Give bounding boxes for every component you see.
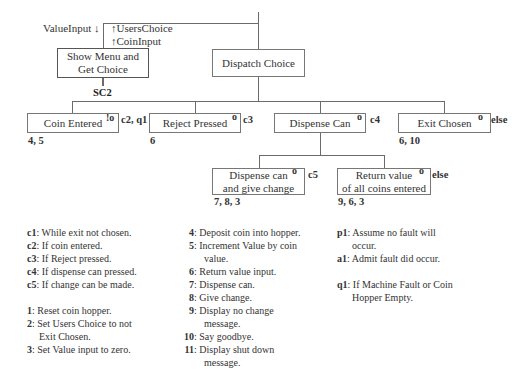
legend-a1: a1: Admit fault did occur. — [337, 252, 507, 265]
show-menu-sc2-connector — [102, 77, 104, 86]
legend-action-8: 8: Give change. — [182, 291, 332, 304]
legend-posit-quit: p1: Assume no fault will occur. a1: Admi… — [337, 226, 507, 304]
reject-pressed-box: Reject Pressed — [149, 113, 241, 133]
reject-pressed-connector — [195, 101, 196, 113]
dispense-change-connector — [259, 155, 260, 168]
dispense-and-change-line1: Dispense can — [229, 169, 287, 182]
legend-actions-continued: 4: Deposit coin into hopper. 5: Incremen… — [182, 226, 332, 369]
legend-c4: c4: If dispense can pressed. — [27, 265, 177, 278]
legend-q1: q1: If Machine Fault or Coin — [337, 278, 507, 291]
legend-action-11: 11: Display shut down — [182, 343, 332, 356]
legend-action-5: 5: Increment Value by coin — [182, 239, 332, 252]
dispense-and-change-line2: and give change — [223, 182, 294, 195]
exit-chosen-marker: o — [478, 111, 483, 122]
reject-pressed-condition: c3 — [243, 114, 253, 125]
dispense-can-marker: o — [357, 111, 362, 122]
legend-action-2: 2: Set Users Choice to not — [27, 317, 177, 330]
return-value-line1: Return value — [356, 169, 413, 182]
return-value-box: Return value of all coins entered — [337, 168, 431, 195]
show-menu-connector — [103, 23, 104, 49]
return-value-condition: else — [432, 169, 448, 180]
legend-action-7: 7: Dispense can. — [182, 278, 332, 291]
dispatch-choice-box: Dispatch Choice — [212, 49, 305, 77]
exit-chosen-label: Exit Chosen — [417, 117, 471, 130]
dispense-and-change-marker: o — [292, 165, 297, 176]
legend-c5: c5: If change can be made. — [27, 278, 177, 291]
coin-entered-connector — [72, 101, 73, 113]
dispense-can-connector — [320, 101, 321, 113]
dispense-and-change-condition: c5 — [308, 169, 318, 180]
level2-horizontal-connector — [72, 101, 445, 102]
users-choice-flow-label: ↑UsersChoice — [111, 22, 173, 34]
dispense-can-label: Dispense Can — [290, 117, 351, 130]
exit-chosen-connector — [444, 101, 445, 113]
dispense-can-condition: c4 — [370, 114, 380, 125]
reject-pressed-label: Reject Pressed — [163, 117, 227, 130]
reject-pressed-marker: o — [232, 111, 237, 122]
legend-action-3: 3: Set Value input to zero. — [27, 343, 177, 356]
legend-conditions-actions: c1: While exit not chosen. c2: If coin e… — [27, 226, 177, 356]
reject-pressed-actions: 6 — [150, 135, 155, 146]
legend-p1: p1: Assume no fault will — [337, 226, 507, 239]
exit-chosen-actions: 6, 10 — [399, 135, 420, 146]
legend-action-1: 1: Reset coin hopper. — [27, 304, 177, 317]
dispense-and-change-actions: 7, 8, 3 — [214, 196, 240, 207]
dispatch-down-connector — [258, 76, 259, 102]
return-value-actions: 9, 6, 3 — [338, 196, 364, 207]
coin-entered-label: Coin Entered — [44, 117, 102, 130]
level3-horizontal-connector — [259, 155, 385, 156]
exit-chosen-condition: else — [491, 114, 507, 125]
dispense-can-box: Dispense Can — [274, 113, 366, 133]
legend-action-10: 10: Say goodbye. — [182, 330, 332, 343]
return-value-connector — [384, 155, 385, 168]
legend-action-6: 6: Return value input. — [182, 265, 332, 278]
show-menu-line1: Show Menu and — [67, 50, 139, 63]
legend-c3: c3: If Reject pressed. — [27, 252, 177, 265]
coin-input-flow-label: ↑CoinInput — [111, 35, 161, 47]
return-value-line2: of all coins entered — [342, 182, 426, 195]
sc2-label: SC2 — [93, 87, 112, 98]
coin-entered-condition: c2, q1 — [121, 114, 147, 125]
coin-entered-actions: 4, 5 — [28, 135, 44, 146]
legend-action-9: 9: Display no change — [182, 304, 332, 317]
return-value-marker: o — [419, 165, 424, 176]
value-input-flow-label: ValueInput ↓ — [43, 22, 100, 34]
root-connector — [258, 12, 259, 49]
legend-c2: c2: If coin entered. — [27, 239, 177, 252]
show-menu-box: Show Menu and Get Choice — [57, 48, 149, 78]
coin-entered-marker: !o — [106, 112, 114, 123]
legend-action-4: 4: Deposit coin into hopper. — [182, 226, 332, 239]
dispatch-choice-label: Dispatch Choice — [222, 57, 295, 70]
show-menu-line2: Get Choice — [78, 63, 128, 76]
dispense-can-down-connector — [320, 132, 321, 155]
legend-c1: c1: While exit not chosen. — [27, 226, 177, 239]
